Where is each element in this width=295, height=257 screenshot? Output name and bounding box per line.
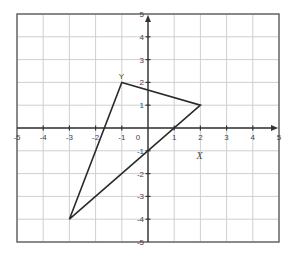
- axes: [17, 15, 278, 242]
- x-tick-label: -2: [92, 133, 100, 142]
- x-axis-arrow-icon: [271, 125, 278, 131]
- x-tick-label: -4: [40, 133, 48, 142]
- x-tick-label: 3: [224, 133, 229, 142]
- y-tick-label: 2: [140, 78, 145, 87]
- y-tick-label: -3: [137, 192, 145, 201]
- x-tick-label: 2: [198, 133, 203, 142]
- y-axis-arrow-icon: [145, 15, 151, 22]
- y-tick-label: 4: [140, 33, 145, 42]
- x-tick-label: 4: [251, 133, 256, 142]
- y-tick-label: -4: [137, 215, 145, 224]
- y-tick-label: 1: [140, 101, 145, 110]
- x-tick-label: -3: [66, 133, 74, 142]
- x-tick-label: 5: [277, 133, 282, 142]
- x-tick-label: -1: [118, 133, 126, 142]
- x-tick-label: 1: [172, 133, 177, 142]
- coordinate-plane: -5-4-3-2-1012345-5-4-3-2-112345 X Y: [0, 0, 295, 257]
- y-axis-label: Y: [119, 72, 125, 81]
- x-tick-label: -5: [13, 133, 21, 142]
- x-axis-label: X: [195, 150, 203, 161]
- y-tick-label: -5: [137, 238, 145, 247]
- x-tick-label: 0: [136, 133, 141, 142]
- y-tick-label: 5: [140, 10, 145, 19]
- y-tick-label: 3: [140, 56, 145, 65]
- y-tick-label: -2: [137, 170, 145, 179]
